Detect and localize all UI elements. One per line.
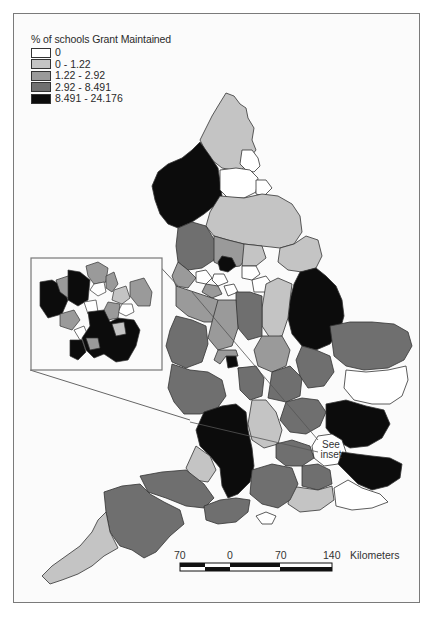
scale-tick-0: 0 (227, 549, 233, 561)
region-cleveland (256, 180, 272, 196)
scale-tick-140: 140 (323, 549, 341, 561)
region-oxfordshire (248, 400, 282, 448)
region-isle-of-wight (256, 512, 276, 524)
inset-pointer-line-bottom (30, 370, 190, 420)
region-norfolk (330, 322, 412, 370)
see-inset-label: See inset (318, 440, 344, 460)
see-inset-line2: inset (318, 450, 344, 460)
region-nottinghamshire (262, 278, 292, 338)
region-wm-black (226, 356, 238, 368)
region-warwickshire (238, 366, 264, 400)
region-shropshire (166, 316, 208, 368)
scale-bar (180, 563, 332, 571)
scale-labels: 70 0 70 140 Kilometers (0, 549, 431, 563)
region-hereford-worcester (168, 364, 226, 414)
region-cornwall (42, 512, 118, 584)
region-gm-white1 (196, 270, 212, 284)
region-northamptonshire (268, 366, 302, 402)
region-durham (220, 168, 258, 198)
region-gloucestershire (196, 404, 254, 498)
scale-tick-70-left: 70 (174, 549, 186, 561)
scale-unit: Kilometers (350, 549, 400, 561)
region-surrey (302, 464, 332, 490)
england-map (0, 0, 431, 617)
region-leeds-light (242, 244, 266, 266)
scale-tick-70-right: 70 (275, 549, 287, 561)
region-dorset (204, 498, 250, 524)
region-suffolk (344, 366, 408, 404)
region-derbyshire (236, 292, 262, 340)
region-leicestershire (254, 336, 290, 372)
region-gm-white2 (212, 274, 228, 286)
region-wakefield-white (242, 266, 260, 280)
